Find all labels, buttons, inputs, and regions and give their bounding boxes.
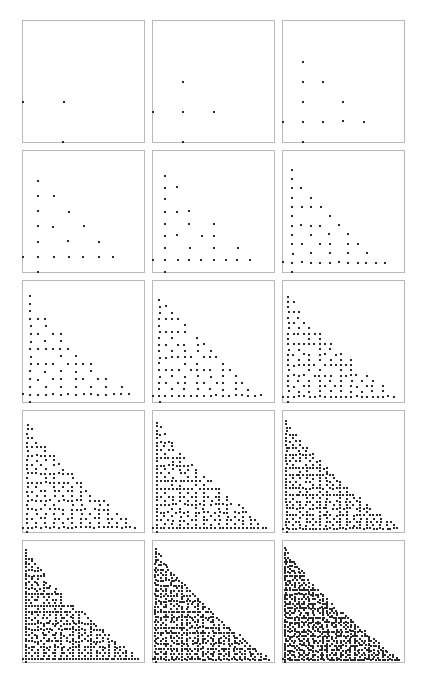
- scatter-dot: [225, 637, 227, 639]
- scatter-dot: [90, 628, 92, 630]
- scatter-dot: [156, 442, 158, 444]
- scatter-dot: [27, 508, 29, 510]
- scatter-dot: [67, 605, 69, 607]
- scatter-dot: [102, 655, 104, 657]
- scatter-dot: [187, 488, 189, 490]
- scatter-dot: [292, 447, 294, 449]
- scatter-dot: [171, 356, 173, 358]
- scatter-dot: [349, 657, 351, 659]
- scatter-dot: [25, 620, 27, 622]
- scatter-dot: [156, 480, 158, 482]
- scatter-dot: [330, 359, 332, 361]
- scatter-dot: [205, 653, 207, 655]
- scatter-dot: [223, 640, 225, 642]
- scatter-dot: [165, 369, 167, 371]
- scatter-dot: [22, 101, 24, 103]
- scatter-dot: [195, 476, 197, 478]
- scatter-dot: [176, 595, 178, 597]
- scatter-dot: [116, 522, 118, 524]
- scatter-dot: [195, 492, 197, 494]
- scatter-dot: [213, 259, 215, 261]
- scatter-dot: [196, 382, 198, 384]
- scatter-dot: [378, 652, 380, 654]
- scatter-dot: [66, 658, 68, 660]
- scatter-dot: [52, 393, 54, 395]
- scatter-dot: [48, 596, 50, 598]
- scatter-dot: [356, 500, 358, 502]
- scatter-dot: [298, 624, 300, 626]
- scatter-dot: [182, 111, 184, 113]
- scatter-dot: [301, 261, 303, 263]
- scatter-dot: [45, 481, 47, 483]
- scatter-dot: [292, 464, 294, 466]
- scatter-dot: [326, 598, 328, 600]
- scatter-dot: [295, 434, 297, 436]
- scatter-dot: [78, 646, 80, 648]
- scatter-dot: [202, 508, 204, 510]
- scatter-panel: [152, 540, 275, 663]
- scatter-dot: [371, 390, 373, 392]
- scatter-dot: [345, 642, 347, 644]
- scatter-dot: [52, 599, 54, 601]
- scatter-dot: [211, 500, 213, 502]
- scatter-dot: [154, 613, 156, 615]
- scatter-dot: [303, 579, 305, 581]
- scatter-dot: [70, 616, 72, 618]
- scatter-dot: [75, 646, 77, 648]
- scatter-dot: [330, 390, 332, 392]
- scatter-dot: [305, 464, 307, 466]
- scatter-dot: [312, 528, 314, 530]
- scatter-dot: [165, 305, 167, 307]
- scatter-dot: [52, 605, 54, 607]
- scatter-dot: [350, 385, 352, 387]
- scatter-dot: [287, 301, 289, 303]
- scatter-dot: [199, 658, 201, 660]
- scatter-dot: [187, 515, 189, 517]
- scatter-dot: [227, 516, 229, 518]
- scatter-dot: [326, 626, 328, 628]
- scatter-dot: [353, 518, 355, 520]
- scatter-dot: [54, 591, 56, 593]
- scatter-dot: [339, 524, 341, 526]
- scatter-dot: [99, 652, 101, 654]
- scatter-dot: [191, 464, 193, 466]
- scatter-dot: [102, 646, 104, 648]
- scatter-dot: [75, 378, 77, 380]
- scatter-dot: [60, 340, 62, 342]
- scatter-dot: [336, 500, 338, 502]
- scatter-dot: [298, 474, 300, 476]
- scatter-dot: [309, 508, 311, 510]
- panel-plot-area: [283, 541, 404, 662]
- scatter-dot: [286, 504, 288, 506]
- scatter-dot: [163, 512, 165, 514]
- scatter-dot: [156, 519, 158, 521]
- panel-plot-area: [153, 151, 274, 272]
- scatter-dot: [162, 622, 164, 624]
- scatter-dot: [175, 503, 177, 505]
- scatter-dot: [157, 643, 159, 645]
- scatter-dot: [333, 528, 335, 530]
- scatter-dot: [129, 526, 131, 528]
- scatter-dot: [43, 649, 45, 651]
- scatter-dot: [387, 656, 389, 658]
- scatter-panel: [282, 410, 405, 533]
- scatter-dot: [31, 518, 33, 520]
- scatter-dot: [108, 652, 110, 654]
- scatter-dot: [158, 382, 160, 384]
- scatter-dot: [71, 500, 73, 502]
- scatter-dot: [158, 344, 160, 346]
- scatter-dot: [292, 467, 294, 469]
- scatter-dot: [366, 396, 368, 398]
- scatter-dot: [373, 528, 375, 530]
- scatter-dot: [317, 645, 319, 647]
- scatter-dot: [183, 480, 185, 482]
- scatter-dot: [199, 527, 201, 529]
- scatter-dot: [382, 396, 384, 398]
- scatter-dot: [67, 649, 69, 651]
- scatter-dot: [257, 527, 259, 529]
- scatter-dot: [167, 616, 169, 618]
- scatter-dot: [226, 508, 228, 510]
- scatter-dot: [54, 625, 56, 627]
- scatter-dot: [316, 487, 318, 489]
- scatter-dot: [197, 645, 199, 647]
